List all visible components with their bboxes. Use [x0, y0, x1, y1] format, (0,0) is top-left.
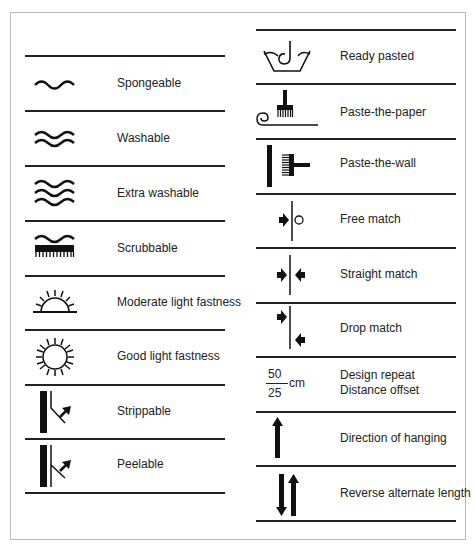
design-repeat-fraction-icon: 50 25 cm [256, 358, 336, 411]
symbol-row-ready-pasted: Ready pasted [256, 31, 456, 83]
symbol-row-extra-washable: Extra washable [25, 167, 225, 220]
symbol-label: Straight match [340, 267, 417, 282]
symbol-row-paste-the-paper: Paste-the-paper [256, 85, 456, 138]
symbol-row-drop-match: Drop match [256, 304, 456, 356]
symbol-row-straight-match: Straight match [256, 249, 456, 302]
symbol-label: Paste-the-wall [340, 156, 416, 171]
symbol-label: Peelable [117, 457, 164, 472]
divider [256, 520, 456, 522]
symbol-label: Reverse alternate length [340, 486, 471, 501]
spongeable-wave-icon [25, 57, 105, 110]
scrubbable-brush-wave-icon [25, 222, 105, 275]
fraction-unit: cm [289, 376, 305, 390]
fraction-denominator: 25 [268, 386, 281, 400]
drop-match-icon [256, 304, 336, 356]
symbol-row-design-repeat: 50 25 cm Design repeat Distance offset [256, 358, 456, 411]
symbol-row-scrubbable: Scrubbable [25, 222, 225, 275]
symbol-row-good-light-fastness: Good light fastness [25, 331, 225, 384]
divider [25, 492, 225, 494]
symbol-label: Scrubbable [117, 241, 178, 256]
paste-the-wall-brush-icon [256, 140, 336, 193]
symbol-label: Ready pasted [340, 49, 414, 64]
direction-arrow-up-icon [256, 413, 336, 465]
symbol-row-reverse-alternate-length: Reverse alternate length [256, 467, 456, 520]
ready-pasted-basin-icon [256, 31, 336, 83]
symbol-label: Good light fastness [117, 349, 220, 364]
fraction-numerator: 50 [268, 367, 281, 381]
symbol-row-paste-the-wall: Paste-the-wall [256, 140, 456, 193]
extra-washable-triple-wave-icon [25, 167, 105, 220]
peelable-icon [25, 440, 105, 492]
symbol-label: Extra washable [117, 186, 199, 201]
symbol-row-moderate-light-fastness: Moderate light fastness [25, 277, 225, 329]
symbol-label: Paste-the-paper [340, 105, 426, 120]
symbol-label-secondary: Distance offset [340, 383, 419, 398]
fraction-bar [266, 383, 288, 384]
symbol-row-spongeable: Spongeable [25, 57, 225, 110]
symbol-label: Moderate light fastness [117, 295, 241, 310]
symbol-row-washable: Washable [25, 112, 225, 165]
symbol-label: Free match [340, 212, 401, 227]
symbol-label: Spongeable [117, 76, 181, 91]
symbol-label: Washable [117, 131, 170, 146]
straight-match-icon [256, 249, 336, 302]
symbol-row-strippable: Strippable [25, 386, 225, 438]
symbol-label: Design repeat [340, 368, 415, 383]
symbol-label: Drop match [340, 321, 402, 336]
symbol-label: Strippable [117, 404, 171, 419]
paste-the-paper-brush-icon [256, 85, 336, 138]
washable-double-wave-icon [25, 112, 105, 165]
symbol-label: Direction of hanging [340, 431, 447, 446]
full-sun-icon [25, 331, 105, 384]
reverse-alternate-arrows-icon [256, 467, 336, 520]
symbol-row-peelable: Peelable [25, 440, 225, 492]
half-sun-icon [25, 277, 105, 329]
strippable-icon [25, 386, 105, 438]
free-match-icon [256, 195, 336, 247]
symbol-row-direction-of-hanging: Direction of hanging [256, 413, 456, 465]
symbol-row-free-match: Free match [256, 195, 456, 247]
